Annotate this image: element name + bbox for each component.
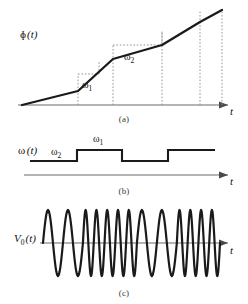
phase-slope-label-omega1: ω1 bbox=[82, 79, 93, 93]
panel-b-svg: ω(t) t ω2 ω1 bbox=[0, 128, 248, 188]
output-x-axis-label: t bbox=[230, 244, 234, 256]
caption-b: (b) bbox=[0, 186, 248, 196]
panel-c-svg: V0(t) t bbox=[0, 198, 248, 290]
phase-slope-runs bbox=[78, 31, 162, 74]
output-y-axis-label: V0(t) bbox=[14, 232, 36, 247]
figure-container: ɸ(t) t bbox=[0, 0, 248, 304]
frequency-level-label-omega2: ω2 bbox=[51, 146, 62, 160]
frequency-x-axis-arrowhead bbox=[219, 172, 228, 179]
panel-phase: ɸ(t) t bbox=[0, 0, 248, 115]
phase-curve bbox=[22, 10, 222, 105]
frequency-y-axis-label: ω(t) bbox=[18, 144, 37, 157]
caption-a: (a) bbox=[0, 114, 248, 124]
panel-frequency: ω(t) t ω2 ω1 bbox=[0, 128, 248, 188]
frequency-level-label-omega1: ω1 bbox=[93, 133, 104, 147]
panel-a-svg: ɸ(t) t bbox=[0, 0, 248, 115]
panel-output-signal: V0(t) t bbox=[0, 198, 248, 290]
phase-x-axis-arrowhead bbox=[219, 102, 228, 109]
phase-droplines bbox=[78, 10, 222, 105]
phase-y-axis-label: ɸ(t) bbox=[20, 28, 38, 41]
caption-c: (c) bbox=[0, 288, 248, 298]
